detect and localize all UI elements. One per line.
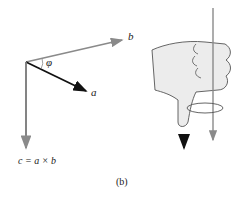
vector-b	[26, 40, 122, 62]
cross-product-diagram	[0, 0, 248, 203]
label-phi: φ	[46, 56, 52, 68]
angle-arc	[41, 58, 43, 69]
label-a: a	[91, 86, 97, 98]
label-c-equation: c = a × b	[18, 155, 56, 166]
rotation-ellipse	[187, 103, 223, 113]
vector-a	[26, 62, 86, 91]
figure-caption: (b)	[116, 176, 128, 187]
label-b: b	[128, 30, 134, 42]
right-hand-icon	[152, 41, 231, 126]
